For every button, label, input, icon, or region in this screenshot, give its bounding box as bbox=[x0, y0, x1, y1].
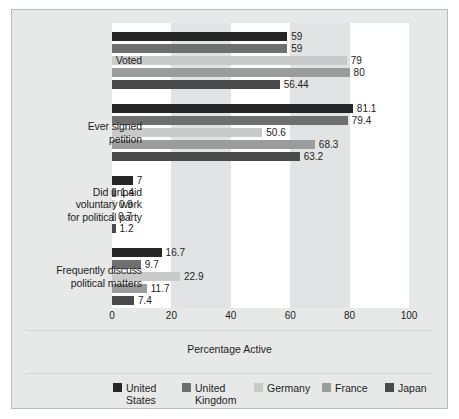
x-tick-label: 80 bbox=[344, 310, 355, 321]
category-label-line: Frequently discuss bbox=[0, 264, 142, 277]
divider-above-legend bbox=[26, 373, 433, 374]
category-label: Frequently discusspolitical matters bbox=[0, 264, 142, 289]
bar bbox=[112, 248, 162, 257]
legend-item[interactable]: Japan bbox=[385, 382, 427, 394]
category-label: Ever signedpetition bbox=[0, 120, 142, 145]
bar bbox=[112, 32, 287, 41]
bar bbox=[112, 104, 353, 113]
bar bbox=[112, 296, 134, 305]
legend-label: United States bbox=[126, 382, 156, 406]
bar bbox=[112, 116, 348, 125]
x-tick-label: 20 bbox=[166, 310, 177, 321]
legend-label: Japan bbox=[398, 382, 427, 394]
category-label-line: for political party bbox=[0, 211, 142, 224]
grid-band bbox=[290, 23, 349, 308]
legend-swatch bbox=[113, 383, 122, 392]
bar-value-label: 9.7 bbox=[145, 259, 159, 270]
bar bbox=[112, 80, 280, 89]
bar-value-label: 79.4 bbox=[352, 115, 371, 126]
category-label: Voted bbox=[0, 54, 142, 67]
legend-swatch bbox=[322, 383, 331, 392]
legend-item[interactable]: France bbox=[322, 382, 368, 394]
bar bbox=[112, 152, 300, 161]
grid-band bbox=[171, 23, 230, 308]
bar-value-label: 68.3 bbox=[319, 139, 338, 150]
bar bbox=[112, 140, 315, 149]
legend-swatch bbox=[254, 383, 263, 392]
category-label-line: Ever signed bbox=[0, 120, 142, 133]
x-tick-label: 40 bbox=[225, 310, 236, 321]
category-label-line: Did unpaid bbox=[0, 186, 142, 199]
x-tick-label: 60 bbox=[285, 310, 296, 321]
chart-legend: United StatesUnited KingdomGermanyFrance… bbox=[113, 382, 413, 408]
bar-value-label: 81.1 bbox=[357, 103, 376, 114]
category-label-line: voluntary work bbox=[0, 198, 142, 211]
bar-value-label: 80 bbox=[354, 67, 365, 78]
x-tick-label: 0 bbox=[109, 310, 115, 321]
bar bbox=[112, 176, 133, 185]
legend-swatch bbox=[385, 383, 394, 392]
bar bbox=[112, 224, 116, 233]
category-label-line: political matters bbox=[0, 277, 142, 290]
bar-value-label: 79 bbox=[351, 55, 362, 66]
bar-value-label: 63.2 bbox=[304, 151, 323, 162]
legend-label: France bbox=[335, 382, 368, 394]
divider-above-axis-title bbox=[26, 330, 433, 331]
x-tick-label: 100 bbox=[401, 310, 418, 321]
bar bbox=[112, 44, 287, 53]
bar-value-label: 11.7 bbox=[151, 283, 170, 294]
bar-value-label: 7.4 bbox=[138, 295, 152, 306]
legend-item[interactable]: United Kingdom bbox=[182, 382, 236, 406]
legend-label: United Kingdom bbox=[195, 382, 236, 406]
legend-item[interactable]: United States bbox=[113, 382, 156, 406]
bar bbox=[112, 56, 347, 65]
chart-figure: 020406080100 Percentage Active United St… bbox=[11, 9, 448, 409]
category-label-line: petition bbox=[0, 133, 142, 146]
legend-label: Germany bbox=[267, 382, 310, 394]
bar bbox=[112, 68, 350, 77]
bar-value-label: 16.7 bbox=[166, 247, 185, 258]
bar-value-label: 50.6 bbox=[266, 127, 285, 138]
bar-value-label: 7 bbox=[137, 175, 143, 186]
bar-value-label: 59 bbox=[291, 31, 302, 42]
x-axis-title: Percentage Active bbox=[12, 343, 447, 355]
x-axis: 020406080100 bbox=[112, 308, 409, 324]
legend-item[interactable]: Germany bbox=[254, 382, 310, 394]
bar-value-label: 59 bbox=[291, 43, 302, 54]
category-label: Did unpaidvoluntary workfor political pa… bbox=[0, 186, 142, 224]
legend-swatch bbox=[182, 383, 191, 392]
bar-value-label: 56.44 bbox=[284, 79, 309, 90]
category-label-line: Voted bbox=[0, 54, 142, 67]
bar-value-label: 1.2 bbox=[120, 223, 134, 234]
bar-value-label: 22.9 bbox=[184, 271, 203, 282]
